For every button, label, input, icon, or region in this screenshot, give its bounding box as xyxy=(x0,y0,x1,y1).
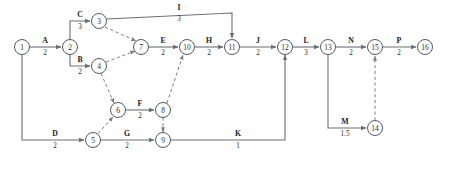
node-label-14: 14 xyxy=(371,124,379,133)
event-node-9[interactable]: 9 xyxy=(156,133,171,148)
activity-duration-f: 2 xyxy=(138,112,142,120)
event-node-13[interactable]: 13 xyxy=(321,40,336,55)
event-node-8[interactable]: 8 xyxy=(156,103,171,118)
activity-duration-k: 1 xyxy=(236,142,240,150)
node-label-16: 16 xyxy=(421,43,429,52)
event-node-11[interactable]: 11 xyxy=(225,40,240,55)
node-label-12: 12 xyxy=(281,43,289,52)
activity-name-j: J xyxy=(256,36,260,45)
activity-name-h: H xyxy=(206,36,212,45)
activity-duration-c: 3 xyxy=(78,23,82,31)
event-node-1[interactable]: 1 xyxy=(15,40,30,55)
activity-duration-h: 2 xyxy=(207,49,211,57)
activity-name-p: P xyxy=(397,36,402,45)
activity-name-l: L xyxy=(303,36,308,45)
event-nodes-layer: 12345678910111213141516 xyxy=(15,14,433,148)
activity-duration-j: 2 xyxy=(256,49,260,57)
activity-name-n: N xyxy=(348,36,354,45)
activity-duration-d: 2 xyxy=(53,142,57,150)
dummy-arrow-5-6 xyxy=(98,117,113,134)
node-label-5: 5 xyxy=(91,136,95,145)
node-label-1: 1 xyxy=(20,43,24,52)
dummy-arrow-3-7 xyxy=(105,27,136,41)
event-node-4[interactable]: 4 xyxy=(92,59,107,74)
node-label-11: 11 xyxy=(228,43,235,52)
activity-name-a: A xyxy=(42,36,48,45)
node-label-13: 13 xyxy=(324,43,332,52)
activity-name-d: D xyxy=(52,129,58,138)
node-label-7: 7 xyxy=(139,43,143,52)
activity-arrow-d xyxy=(22,55,84,141)
event-node-12[interactable]: 12 xyxy=(278,40,293,55)
activity-name-i: I xyxy=(177,3,180,12)
event-node-15[interactable]: 15 xyxy=(368,40,383,55)
activity-name-g: G xyxy=(124,129,130,138)
network-diagram-canvas: A2C3B2I3E2H2J2L3N2P2D2G2F2K1M1.5 1234567… xyxy=(0,0,450,172)
activity-duration-a: 2 xyxy=(43,49,47,57)
node-label-10: 10 xyxy=(183,43,191,52)
aoa-network-svg: A2C3B2I3E2H2J2L3N2P2D2G2F2K1M1.5 1234567… xyxy=(0,0,450,172)
node-label-8: 8 xyxy=(161,106,165,115)
event-node-2[interactable]: 2 xyxy=(63,40,78,55)
node-label-6: 6 xyxy=(116,106,120,115)
event-node-6[interactable]: 6 xyxy=(111,103,126,118)
node-label-4: 4 xyxy=(97,62,101,71)
activity-duration-i: 3 xyxy=(177,15,181,23)
event-node-14[interactable]: 14 xyxy=(368,121,383,136)
activity-name-k: K xyxy=(235,129,241,138)
activity-duration-n: 2 xyxy=(349,49,353,57)
event-node-10[interactable]: 10 xyxy=(180,40,195,55)
event-node-7[interactable]: 7 xyxy=(134,40,149,55)
activity-duration-b: 2 xyxy=(78,68,82,76)
event-node-5[interactable]: 5 xyxy=(86,133,101,148)
event-node-3[interactable]: 3 xyxy=(92,14,107,29)
activity-arrow-k xyxy=(171,55,286,140)
activity-duration-g: 2 xyxy=(125,142,129,150)
node-label-15: 15 xyxy=(371,43,379,52)
activity-name-b: B xyxy=(77,55,82,64)
node-label-2: 2 xyxy=(68,43,72,52)
activity-name-e: E xyxy=(160,36,165,45)
activity-name-c: C xyxy=(77,10,83,19)
event-node-16[interactable]: 16 xyxy=(418,40,433,55)
edges-layer xyxy=(22,13,416,140)
node-label-3: 3 xyxy=(97,17,101,26)
activity-name-m: M xyxy=(341,117,349,126)
activity-duration-l: 3 xyxy=(304,49,308,57)
activity-duration-p: 2 xyxy=(397,49,401,57)
dummy-arrow-4-7 xyxy=(106,51,135,62)
dummy-arrow-8-10 xyxy=(167,55,183,103)
activity-duration-m: 1.5 xyxy=(341,130,350,138)
activity-name-f: F xyxy=(138,99,143,108)
dummy-arrow-4-6 xyxy=(101,74,114,104)
activity-arrow-i xyxy=(107,13,233,38)
activity-duration-e: 2 xyxy=(161,49,165,57)
node-label-9: 9 xyxy=(161,136,165,145)
